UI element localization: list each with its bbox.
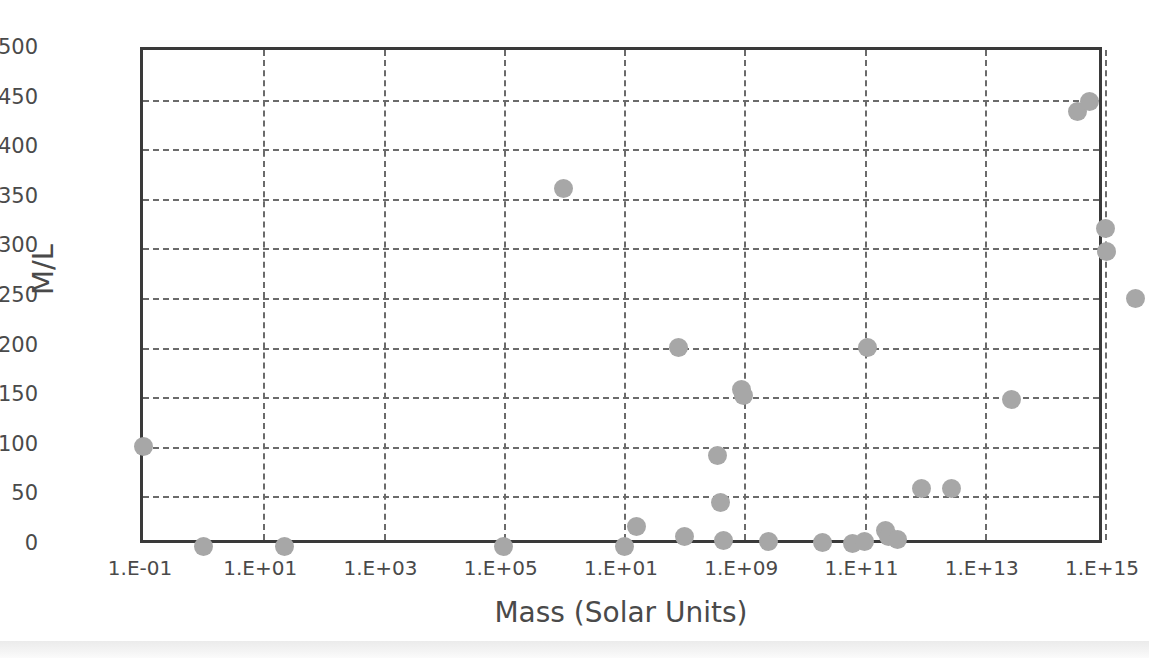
x-axis-tick-label: 1.E+01 <box>200 556 320 580</box>
data-point <box>759 532 778 551</box>
data-point <box>615 537 634 556</box>
gridline-vertical <box>865 50 867 540</box>
x-axis-title: Mass (Solar Units) <box>140 596 1102 629</box>
data-point <box>275 537 294 556</box>
data-point <box>194 537 213 556</box>
data-point <box>134 437 153 456</box>
x-axis-tick-label: 1.E+03 <box>321 556 441 580</box>
data-point <box>813 533 832 552</box>
data-point <box>888 530 907 549</box>
data-point <box>669 338 688 357</box>
data-point <box>554 179 573 198</box>
data-point <box>1097 242 1116 261</box>
data-point <box>708 446 727 465</box>
x-axis-tick-label: 1.E+01 <box>561 556 681 580</box>
y-axis-tick-label: 300 <box>0 233 38 257</box>
y-axis-tick-label: 450 <box>0 85 38 109</box>
y-axis-tick-label: 350 <box>0 184 38 208</box>
x-axis-tick-label: 1.E+15 <box>1042 556 1149 580</box>
plot-area <box>140 47 1102 543</box>
y-axis-tick-label: 50 <box>0 481 38 505</box>
gridline-vertical <box>1105 50 1107 540</box>
gridline-horizontal <box>143 199 1099 201</box>
gridline-vertical <box>985 50 987 540</box>
data-point <box>912 479 931 498</box>
y-axis-tick-label: 100 <box>0 432 38 456</box>
gridline-vertical <box>504 50 506 540</box>
y-axis-tick-label: 250 <box>0 283 38 307</box>
scatter-chart-figure: M/L 500450400350300250200150100500 1.E-0… <box>0 0 1149 658</box>
y-axis-tick-label: 400 <box>0 134 38 158</box>
data-point <box>711 493 730 512</box>
data-point <box>734 386 753 405</box>
gridline-vertical <box>263 50 265 540</box>
x-axis-tick-label: 1.E+13 <box>922 556 1042 580</box>
data-point <box>714 531 733 550</box>
data-point <box>1080 92 1099 111</box>
data-point <box>1096 219 1115 238</box>
data-point <box>494 537 513 556</box>
data-point <box>942 479 961 498</box>
x-axis-tick-label: 1.E-01 <box>80 556 200 580</box>
bottom-decorative-band <box>0 641 1149 658</box>
gridline-horizontal <box>143 348 1099 350</box>
gridline-horizontal <box>143 298 1099 300</box>
gridline-vertical <box>384 50 386 540</box>
gridline-horizontal <box>143 447 1099 449</box>
gridline-vertical <box>624 50 626 540</box>
gridline-horizontal <box>143 397 1099 399</box>
y-axis-tick-label: 200 <box>0 333 38 357</box>
y-axis-tick-label: 500 <box>0 35 38 59</box>
data-point <box>1002 390 1021 409</box>
y-axis-tick-label: 0 <box>0 531 38 555</box>
data-point <box>855 532 874 551</box>
data-point <box>675 527 694 546</box>
y-axis-tick-label: 150 <box>0 382 38 406</box>
data-point <box>627 517 646 536</box>
gridline-horizontal <box>143 149 1099 151</box>
x-axis-tick-label: 1.E+05 <box>441 556 561 580</box>
x-axis-tick-label: 1.E+11 <box>802 556 922 580</box>
gridline-horizontal <box>143 100 1099 102</box>
data-point <box>858 338 877 357</box>
gridline-horizontal <box>143 248 1099 250</box>
data-point <box>1126 289 1145 308</box>
x-axis-tick-label: 1.E+09 <box>681 556 801 580</box>
gridline-vertical <box>744 50 746 540</box>
